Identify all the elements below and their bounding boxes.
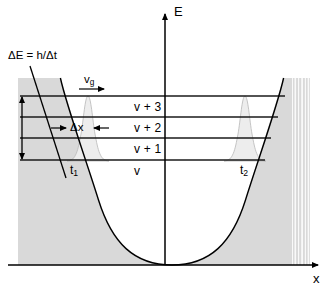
- y-axis-label: E: [174, 5, 183, 18]
- time-label-t2: t2: [240, 164, 248, 178]
- level-label-v0: v: [134, 165, 140, 177]
- figure-canvas: [0, 0, 328, 290]
- time-label-t2-subscript: 2: [243, 168, 248, 178]
- time-label-t1: t1: [70, 164, 78, 178]
- x-axis-label: x: [313, 272, 320, 285]
- group-velocity-subscript: g: [90, 78, 95, 87]
- wavepacket-t2: [224, 96, 266, 161]
- level-label-v3: v + 3: [134, 101, 161, 113]
- level-label-v2: v + 2: [134, 122, 161, 134]
- group-velocity-label: vg: [84, 74, 94, 88]
- time-label-t1-subscript: 1: [73, 168, 78, 178]
- delta-x-label: Δx: [70, 122, 83, 134]
- oscillator-wavepacket-figure: E x ΔE = h/Δt vg Δx v + 3 v + 2 v + 1 v …: [0, 0, 328, 290]
- delta-e-label: ΔE = h/Δt: [8, 50, 57, 62]
- level-label-v1: v + 1: [134, 143, 161, 155]
- potential-shading: [18, 78, 310, 265]
